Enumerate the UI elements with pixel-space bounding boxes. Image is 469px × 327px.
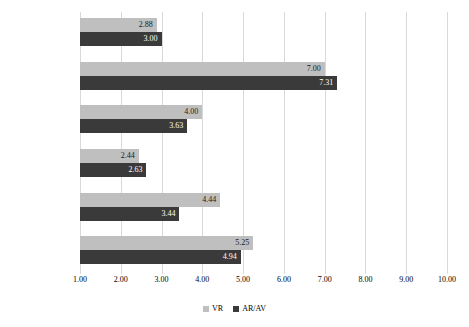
bar-group: 2.442.63	[80, 149, 447, 177]
bar-value-label: 7.00	[307, 65, 321, 73]
plot-area: 2.883.007.007.314.003.632.442.634.443.44…	[80, 12, 447, 274]
gridline-2-00	[121, 12, 122, 274]
gridline-8-00	[365, 12, 366, 274]
bar-value-label: 2.88	[139, 21, 153, 29]
bar-value-label: 4.94	[223, 253, 237, 261]
bar-value-label: 2.44	[121, 152, 135, 160]
bar-ar-av: 2.63	[80, 163, 146, 177]
gridline-4-00	[202, 12, 203, 274]
bar-group: 7.007.31	[80, 62, 447, 90]
x-tick-label: 1.00	[73, 276, 87, 284]
bar-value-label: 4.00	[184, 108, 198, 116]
legend-label: AR/AV	[242, 305, 266, 313]
nasa-tlx-grouped-bar-chart: 2.883.007.007.314.003.632.442.634.443.44…	[0, 0, 469, 327]
gridline-10-00	[447, 12, 448, 274]
bar-group: 2.883.00	[80, 18, 447, 46]
gridline-5-00	[243, 12, 244, 274]
bar-vr: 4.00	[80, 105, 202, 119]
legend-swatch-icon	[203, 306, 209, 312]
bar-vr: 2.44	[80, 149, 139, 163]
gridline-6-00	[284, 12, 285, 274]
x-tick-label: 8.00	[358, 276, 372, 284]
gridline-3-00	[162, 12, 163, 274]
gridline-7-00	[325, 12, 326, 274]
x-tick-label: 9.00	[399, 276, 413, 284]
bar-group: 5.254.94	[80, 236, 447, 264]
bar-ar-av: 3.44	[80, 207, 179, 221]
x-tick-label: 2.00	[114, 276, 128, 284]
x-tick-label: 4.00	[195, 276, 209, 284]
x-tick-label: 5.00	[236, 276, 250, 284]
gridline-1-00	[80, 12, 81, 274]
bar-value-label: 3.63	[169, 122, 183, 130]
legend-item[interactable]: VR	[203, 305, 223, 313]
bar-ar-av: 3.63	[80, 119, 187, 133]
bar-value-label: 2.63	[128, 166, 142, 174]
bar-vr: 2.88	[80, 18, 157, 32]
x-tick-label: 7.00	[318, 276, 332, 284]
legend-swatch-icon	[233, 306, 239, 312]
bar-vr: 7.00	[80, 62, 325, 76]
bar-value-label: 4.44	[202, 196, 216, 204]
bar-value-label: 5.25	[235, 239, 249, 247]
bar-group: 4.003.63	[80, 105, 447, 133]
gridline-9-00	[406, 12, 407, 274]
bar-vr: 4.44	[80, 193, 220, 207]
bar-vr: 5.25	[80, 236, 253, 250]
bar-group: 4.443.44	[80, 193, 447, 221]
x-tick-label: 10.00	[438, 276, 456, 284]
x-tick-label: 6.00	[277, 276, 291, 284]
chart-legend: VRAR/AV	[0, 305, 469, 313]
bar-value-label: 3.44	[161, 210, 175, 218]
bar-value-label: 3.00	[144, 35, 158, 43]
legend-item[interactable]: AR/AV	[233, 305, 266, 313]
bar-ar-av: 7.31	[80, 76, 337, 90]
x-tick-label: 3.00	[155, 276, 169, 284]
bar-value-label: 7.31	[319, 79, 333, 87]
legend-label: VR	[212, 305, 223, 313]
x-axis-tick-labels: 1.002.003.004.005.006.007.008.009.0010.0…	[80, 276, 447, 292]
bar-ar-av: 4.94	[80, 250, 241, 264]
bar-ar-av: 3.00	[80, 32, 162, 46]
